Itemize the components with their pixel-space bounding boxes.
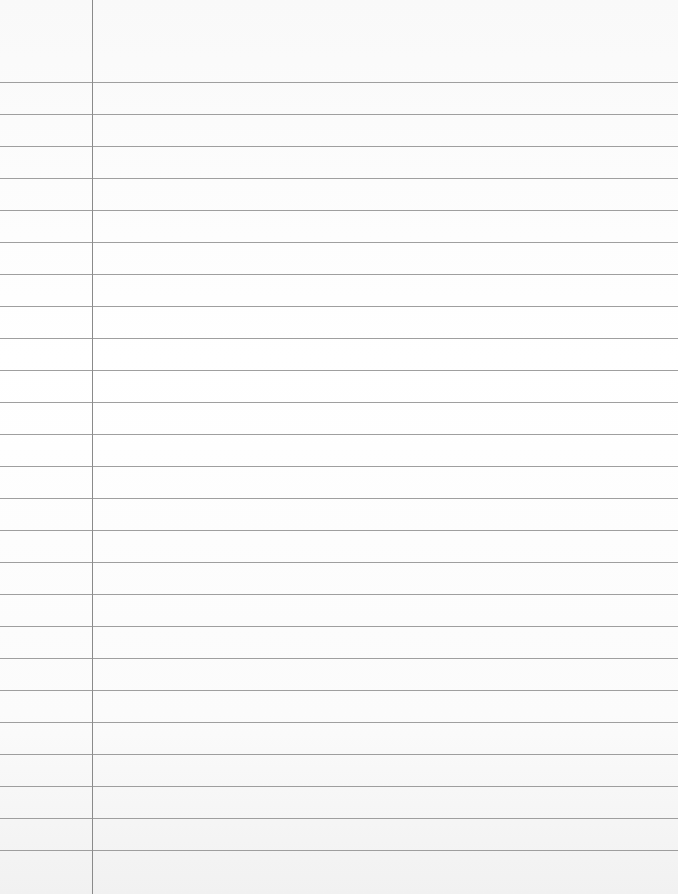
ruled-line (0, 722, 678, 723)
margin-line (92, 0, 93, 894)
ruled-line (0, 498, 678, 499)
lined-paper (0, 0, 678, 894)
ruled-line (0, 210, 678, 211)
ruled-line (0, 658, 678, 659)
ruled-line (0, 242, 678, 243)
ruled-line (0, 466, 678, 467)
ruled-line (0, 82, 678, 83)
ruled-line (0, 178, 678, 179)
ruled-line (0, 338, 678, 339)
ruled-line (0, 850, 678, 851)
ruled-line (0, 594, 678, 595)
ruled-line (0, 370, 678, 371)
ruled-line (0, 818, 678, 819)
ruled-line (0, 690, 678, 691)
ruled-line (0, 146, 678, 147)
ruled-line (0, 114, 678, 115)
ruled-line (0, 754, 678, 755)
ruled-line (0, 274, 678, 275)
ruled-line (0, 402, 678, 403)
ruled-line (0, 530, 678, 531)
ruled-line (0, 626, 678, 627)
ruled-line (0, 786, 678, 787)
ruled-line (0, 306, 678, 307)
ruled-line (0, 562, 678, 563)
ruled-line (0, 434, 678, 435)
